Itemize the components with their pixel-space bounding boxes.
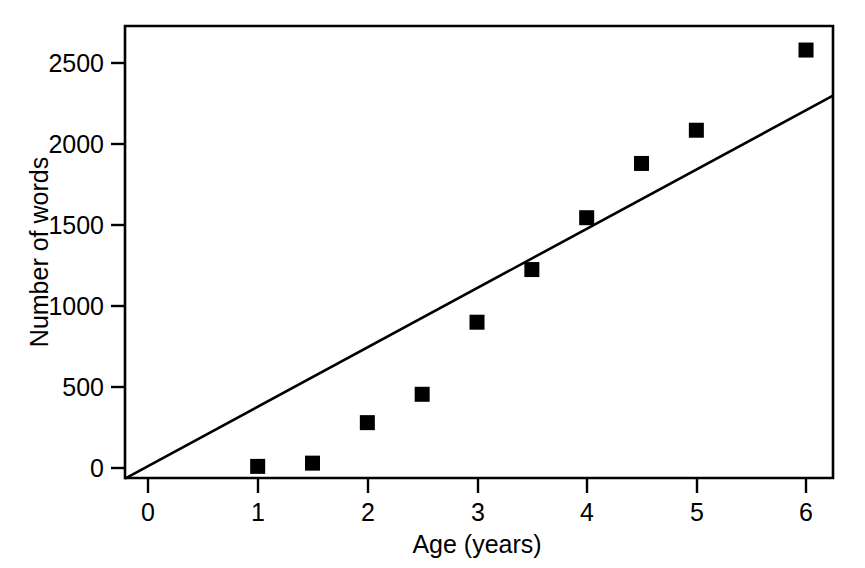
x-tick-label-1: 1 [251,498,265,526]
y-tick-label-0: 0 [90,454,104,482]
x-tick-label-0: 0 [141,498,155,526]
data-point [634,156,649,171]
y-axis-tick-labels: 2500 2000 1500 1000 500 0 [48,49,104,482]
data-point [305,456,320,471]
plot-frame [125,26,833,478]
y-axis-title: Number of words [25,157,53,347]
x-tick-label-6: 6 [799,498,813,526]
y-axis-ticks [111,63,125,468]
data-point [470,315,485,330]
scatter-plot: 2500 2000 1500 1000 500 0 0 1 2 3 4 5 6 [0,0,865,568]
x-axis-title: Age (years) [412,530,541,558]
chart-container: 2500 2000 1500 1000 500 0 0 1 2 3 4 5 6 [0,0,865,568]
data-point [250,459,265,474]
regression-fit-line [125,95,833,478]
data-point [524,262,539,277]
data-point [799,43,814,58]
x-axis-tick-labels: 0 1 2 3 4 5 6 [141,498,813,526]
y-tick-label-500: 500 [62,373,104,401]
y-tick-label-1500: 1500 [48,211,104,239]
x-tick-label-5: 5 [690,498,704,526]
data-point [415,387,430,402]
x-tick-label-2: 2 [361,498,375,526]
data-point [689,123,704,138]
y-tick-label-2500: 2500 [48,49,104,77]
y-tick-label-1000: 1000 [48,292,104,320]
y-tick-label-2000: 2000 [48,130,104,158]
data-point [360,415,375,430]
x-axis-ticks [148,478,806,493]
data-point [579,210,594,225]
x-tick-label-4: 4 [580,498,594,526]
x-tick-label-3: 3 [471,498,485,526]
